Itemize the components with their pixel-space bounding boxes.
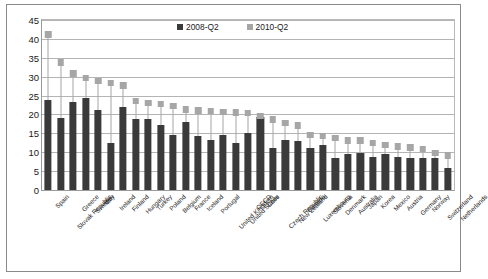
bar-group: [417, 20, 429, 190]
marker-2010q2: [82, 75, 89, 82]
marker-2010q2: [245, 110, 252, 117]
x-axis-labels: SpainSlovak RepublicGreeceSwedenItalyIre…: [41, 193, 455, 267]
bar-2008q2: [357, 153, 364, 190]
bar-2008q2: [132, 119, 139, 190]
bar-2008q2: [144, 119, 151, 190]
bar-2008q2: [70, 102, 77, 190]
bar-group: [279, 20, 291, 190]
bar-2008q2: [257, 117, 264, 190]
bar-group: [117, 20, 129, 190]
bar-group: [342, 20, 354, 190]
bar-2008q2: [382, 154, 389, 190]
bar-2008q2: [207, 140, 214, 190]
bar-2008q2: [432, 158, 439, 190]
marker-2010q2: [95, 78, 102, 85]
legend-label: 2010-Q2: [256, 22, 289, 32]
y-axis-tick-label: 35: [13, 53, 39, 62]
marker-2010q2: [132, 98, 139, 105]
chart-frame: 051015202530354045 2008-Q22010-Q2 SpainS…: [6, 4, 461, 272]
marker-2010q2: [345, 137, 352, 144]
bar-2008q2: [369, 157, 376, 190]
y-axis-tick-label: 0: [13, 186, 39, 195]
bar-group: [104, 20, 116, 190]
marker-2010q2: [120, 82, 127, 89]
bar-group: [429, 20, 441, 190]
y-axis-tick-label: 45: [13, 16, 39, 25]
marker-2010q2: [444, 152, 451, 159]
bar-2008q2: [244, 133, 251, 190]
bar-2008q2: [419, 158, 426, 190]
y-axis-tick-label: 10: [13, 148, 39, 157]
bar-group: [217, 20, 229, 190]
x-axis-tick: Netherlands: [449, 193, 483, 200]
bar-group: [367, 20, 379, 190]
marker-2010q2: [145, 100, 152, 107]
bar-group: [154, 20, 166, 190]
marker-2010q2: [70, 70, 77, 77]
marker-2010q2: [157, 101, 164, 108]
bar-group: [54, 20, 66, 190]
bar-2008q2: [107, 143, 114, 190]
bar-2008q2: [57, 118, 64, 190]
x-axis-tick: Italy: [99, 193, 111, 200]
legend-label: 2008-Q2: [186, 22, 219, 32]
marker-2010q2: [307, 132, 314, 139]
bar-group: [42, 20, 54, 190]
bar-2008q2: [45, 100, 52, 190]
bar-2008q2: [82, 98, 89, 190]
bar-2008q2: [344, 154, 351, 190]
y-axis-tick-label: 40: [13, 34, 39, 43]
bar-2008q2: [194, 136, 201, 190]
y-axis-tick-label: 25: [13, 91, 39, 100]
bar-2008q2: [95, 110, 102, 190]
bar-2008q2: [294, 141, 301, 190]
y-axis-tick-label: 20: [13, 110, 39, 119]
bar-group: [192, 20, 204, 190]
bar-group: [254, 20, 266, 190]
legend-item: 2010-Q2: [247, 22, 289, 32]
bar-group: [442, 20, 454, 190]
bar-group: [379, 20, 391, 190]
bar-group: [392, 20, 404, 190]
marker-2010q2: [220, 109, 227, 116]
bar-2008q2: [394, 157, 401, 190]
bar-group: [242, 20, 254, 190]
bar-2008q2: [157, 125, 164, 190]
bar-group: [404, 20, 416, 190]
bar-group: [354, 20, 366, 190]
bar-group: [204, 20, 216, 190]
bar-2008q2: [219, 135, 226, 190]
bar-group: [129, 20, 141, 190]
bar-group: [317, 20, 329, 190]
bar-2008q2: [232, 143, 239, 190]
marker-2010q2: [45, 31, 52, 38]
legend-swatch-icon: [247, 24, 253, 30]
marker-2010q2: [407, 144, 414, 151]
marker-2010q2: [107, 80, 114, 87]
marker-2010q2: [357, 137, 364, 144]
bar-group: [292, 20, 304, 190]
marker-2010q2: [257, 113, 264, 120]
bar-2008q2: [319, 145, 326, 190]
chart-legend: 2008-Q22010-Q2: [177, 22, 288, 32]
bar-group: [92, 20, 104, 190]
bar-group: [79, 20, 91, 190]
bar-2008q2: [269, 148, 276, 190]
marker-2010q2: [57, 59, 64, 66]
legend-swatch-icon: [177, 24, 183, 30]
marker-2010q2: [395, 143, 402, 150]
marker-2010q2: [295, 122, 302, 129]
marker-2010q2: [432, 150, 439, 157]
bar-2008q2: [282, 140, 289, 190]
y-axis-tick-label: 30: [13, 72, 39, 81]
marker-2010q2: [232, 109, 239, 116]
y-axis-tick-label: 5: [13, 167, 39, 176]
bar-2008q2: [307, 148, 314, 190]
bar-2008q2: [120, 107, 127, 190]
marker-2010q2: [420, 146, 427, 153]
y-axis-tick-label: 15: [13, 129, 39, 138]
bar-group: [67, 20, 79, 190]
marker-2010q2: [382, 142, 389, 149]
bar-2008q2: [332, 158, 339, 190]
marker-2010q2: [207, 108, 214, 115]
